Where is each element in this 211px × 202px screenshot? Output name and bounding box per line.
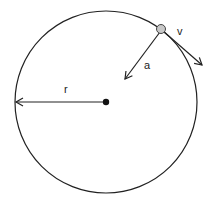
- center-point: [103, 99, 109, 105]
- circular-motion-diagram: r a v: [0, 0, 211, 202]
- acceleration-arrow: [125, 32, 160, 79]
- velocity-label: v: [177, 25, 183, 37]
- velocity-arrow: [163, 31, 202, 65]
- particle: [157, 25, 166, 34]
- radius-label: r: [64, 83, 68, 95]
- acceleration-label: a: [144, 59, 151, 71]
